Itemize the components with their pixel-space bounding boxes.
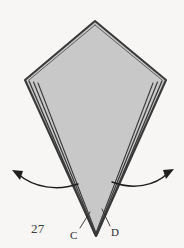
- kite-body: [25, 21, 166, 236]
- origami-diagram-page: 27 C D: [0, 0, 184, 248]
- origami-figure: [0, 0, 184, 248]
- kite-shape: [25, 21, 166, 236]
- step-number-label: 27: [31, 222, 45, 235]
- right-fold-arrow-head: [163, 169, 174, 179]
- point-label-c: C: [70, 230, 77, 241]
- point-label-d: D: [111, 227, 119, 238]
- left-fold-arrow-head: [12, 170, 23, 180]
